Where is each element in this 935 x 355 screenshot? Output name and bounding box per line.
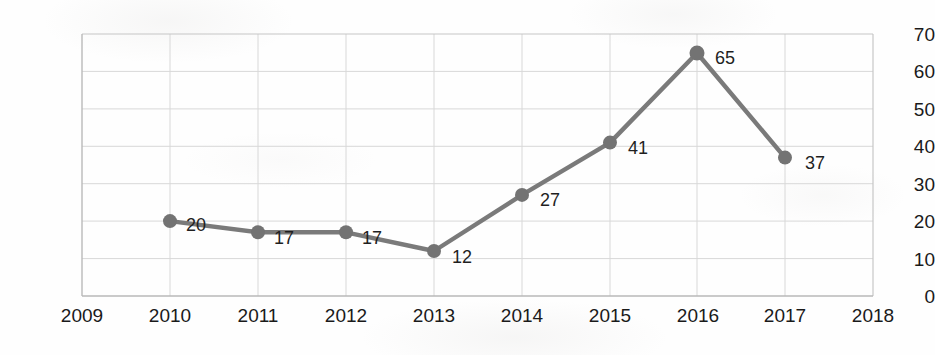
data-point-label: 27 bbox=[540, 191, 560, 209]
data-point-marker bbox=[690, 46, 705, 61]
data-point-marker bbox=[251, 225, 265, 239]
data-point-marker bbox=[778, 151, 792, 165]
series-markers bbox=[163, 46, 792, 259]
data-point-marker bbox=[603, 136, 617, 150]
data-point-label: 17 bbox=[274, 229, 294, 247]
data-point-marker bbox=[339, 225, 353, 239]
data-point-marker bbox=[163, 214, 177, 228]
data-point-label: 41 bbox=[628, 139, 648, 157]
line-chart: 70 60 50 40 30 20 10 0 2009 2010 2011 20… bbox=[0, 0, 935, 355]
plot-area bbox=[0, 0, 935, 355]
vertical-gridlines bbox=[170, 34, 785, 296]
data-point-label: 17 bbox=[362, 229, 382, 247]
data-point-label: 65 bbox=[715, 49, 735, 67]
data-point-label: 37 bbox=[805, 154, 825, 172]
data-point-marker bbox=[427, 244, 441, 258]
data-point-label: 20 bbox=[186, 216, 206, 234]
data-point-marker bbox=[515, 188, 529, 202]
data-point-label: 12 bbox=[452, 248, 472, 266]
plot-frame-border bbox=[82, 34, 873, 296]
